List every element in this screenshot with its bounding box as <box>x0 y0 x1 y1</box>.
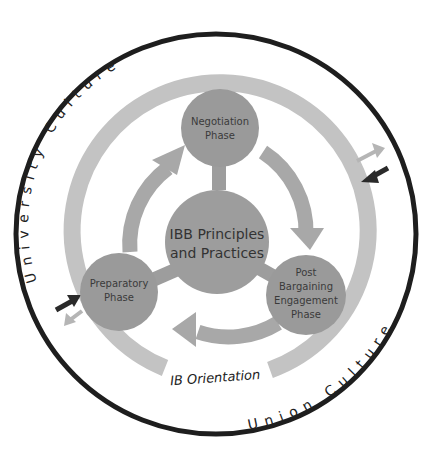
negotiation-phase-node: Negotiation Phase <box>181 89 259 167</box>
svg-text:Phase: Phase <box>291 309 321 320</box>
post-bargaining-phase-node: Post Bargaining Engagement Phase <box>266 255 346 335</box>
right-light-arrow-icon <box>357 143 385 161</box>
cycle-arrow-negotiation-to-post-icon <box>263 152 324 250</box>
svg-text:Phase: Phase <box>104 292 134 303</box>
svg-text:Negotiation: Negotiation <box>191 116 249 127</box>
ibb-principles-hub: IBB Principles and Practices <box>165 190 269 294</box>
ib-orientation-label: IB Orientation <box>170 367 261 388</box>
svg-text:Bargaining: Bargaining <box>279 281 333 292</box>
svg-text:Engagement: Engagement <box>274 295 338 306</box>
svg-text:and Practices: and Practices <box>170 245 264 261</box>
svg-text:Post: Post <box>296 267 317 278</box>
cycle-arrow-post-to-prep-icon <box>172 312 278 347</box>
left-dark-arrow-icon <box>56 295 81 310</box>
ibb-cycle-diagram: University Culture Union Culture IB Orie… <box>0 0 435 449</box>
svg-text:Preparatory: Preparatory <box>90 278 149 289</box>
svg-text:Phase: Phase <box>205 130 235 141</box>
svg-text:IBB Principles: IBB Principles <box>170 226 265 242</box>
left-light-arrow-icon <box>64 311 82 326</box>
preparatory-phase-node: Preparatory Phase <box>80 253 158 331</box>
